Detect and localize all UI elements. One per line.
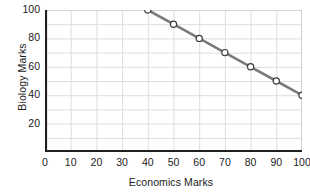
y-tick-label: 80 (14, 32, 40, 43)
data-series (145, 10, 302, 98)
data-point (196, 35, 202, 41)
x-tick-label: 70 (212, 157, 238, 168)
data-point (222, 50, 228, 56)
data-point (145, 10, 151, 13)
x-axis-tick-labels: 0102030405060708090100 (0, 157, 310, 171)
x-tick-label: 60 (186, 157, 212, 168)
chart-figure: Biology Marks Economics Marks 2040608010… (0, 0, 310, 196)
y-tick-label: 20 (14, 118, 40, 129)
y-tick-label: 100 (14, 4, 40, 15)
plot-svg (45, 10, 302, 152)
x-axis-label: Economics Marks (38, 176, 304, 188)
data-point (248, 64, 254, 70)
x-tick-label: 30 (109, 157, 135, 168)
x-tick-label: 50 (161, 157, 187, 168)
y-tick-label: 60 (14, 61, 40, 72)
x-tick-label: 20 (83, 157, 109, 168)
x-tick-label: 80 (238, 157, 264, 168)
gridlines (45, 10, 302, 152)
data-point (273, 78, 279, 84)
data-point (299, 92, 302, 98)
plot-area (45, 10, 302, 152)
x-tick-label: 0 (32, 157, 58, 168)
x-tick-label: 10 (58, 157, 84, 168)
x-tick-label: 40 (135, 157, 161, 168)
y-tick-label: 40 (14, 89, 40, 100)
data-point (170, 21, 176, 27)
x-tick-label: 90 (263, 157, 289, 168)
x-tick-label: 100 (289, 157, 310, 168)
